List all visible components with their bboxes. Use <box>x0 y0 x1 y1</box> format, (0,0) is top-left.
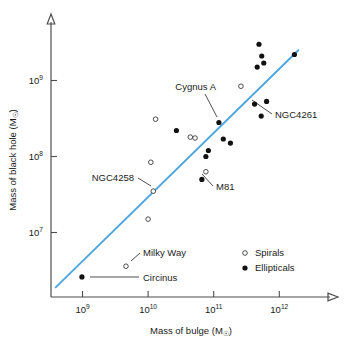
data-point-elliptical <box>255 65 260 70</box>
data-point-spiral <box>239 84 244 89</box>
legend-label-spirals: Spirals <box>255 247 284 258</box>
data-point-elliptical <box>256 42 261 47</box>
x-tick-label: 1011 <box>205 303 223 315</box>
data-point-spiral <box>153 117 158 122</box>
data-point-elliptical <box>264 99 269 104</box>
annotation-label: Milky Way <box>143 247 186 258</box>
data-point-elliptical <box>228 141 233 146</box>
y-tick-label: 107 <box>29 226 44 238</box>
legend-label-ellipticals: Ellipticals <box>255 262 295 273</box>
axis-titles-group: Mass of bulge (M☉) Mass of black hole (M… <box>7 109 232 337</box>
legend-marker-ellipticals <box>242 265 247 270</box>
annotation-label: NGC4261 <box>275 109 317 120</box>
data-point-spiral <box>149 160 154 165</box>
data-point-elliptical <box>221 136 226 141</box>
data-point-spiral <box>204 169 209 174</box>
annotation-label: Circinus <box>143 272 178 283</box>
scatter-plot: 109101010111012107108109 Cygnus ANGC4261… <box>0 0 344 356</box>
data-point-spiral <box>188 135 193 140</box>
x-tick-label: 109 <box>75 303 90 315</box>
annotation-label: NGC4258 <box>92 172 134 183</box>
chart-figure: 109101010111012107108109 Cygnus ANGC4261… <box>0 0 344 356</box>
data-point-spiral <box>146 217 151 222</box>
data-point-elliptical <box>216 120 221 125</box>
x-tick-label: 1012 <box>270 303 288 315</box>
data-point-elliptical <box>292 52 297 57</box>
data-point-elliptical <box>259 114 264 119</box>
data-point-elliptical <box>259 53 264 58</box>
annotation-leader-line <box>205 94 217 117</box>
annotation-leader-line <box>131 253 140 261</box>
annotation-label: M81 <box>216 181 234 192</box>
data-point-spiral <box>124 264 129 269</box>
legend-marker-spirals <box>243 251 248 256</box>
annotation-leader-line <box>138 178 151 186</box>
y-tick-label: 108 <box>29 150 44 162</box>
data-point-elliptical <box>79 274 84 279</box>
x-tick-label: 1010 <box>139 303 157 315</box>
data-point-elliptical <box>252 101 257 106</box>
y-tick-label: 109 <box>29 74 44 86</box>
data-point-elliptical <box>261 60 266 65</box>
annotation-label: Cygnus A <box>175 81 216 92</box>
data-point-elliptical <box>199 177 204 182</box>
data-point-elliptical <box>203 154 208 159</box>
chart-legend: SpiralsEllipticals <box>242 247 294 273</box>
data-point-elliptical <box>206 148 211 153</box>
x-axis-title: Mass of bulge (M☉) <box>150 325 232 337</box>
data-point-spiral <box>151 189 156 194</box>
data-point-elliptical <box>174 128 179 133</box>
data-points-group <box>79 42 297 280</box>
y-axis-title: Mass of black hole (M☉) <box>7 109 19 211</box>
data-point-spiral <box>193 136 198 141</box>
